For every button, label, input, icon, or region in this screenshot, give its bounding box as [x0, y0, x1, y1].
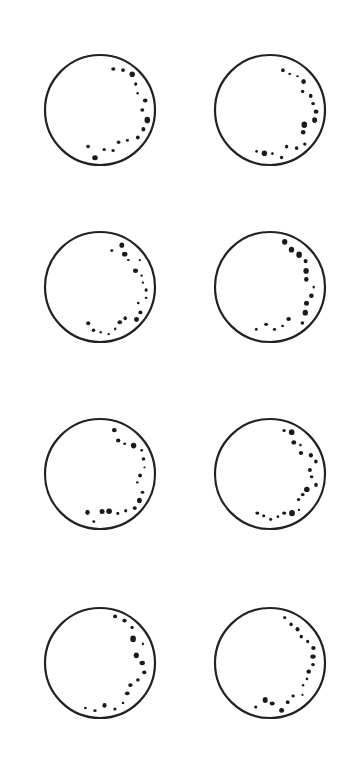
spot: [121, 68, 125, 72]
spot: [282, 429, 285, 432]
spot: [124, 509, 127, 512]
spot: [310, 475, 314, 478]
spot: [277, 515, 280, 518]
spot: [264, 323, 268, 326]
spot: [282, 511, 286, 514]
spot: [108, 333, 110, 335]
spot: [119, 243, 124, 248]
disc-outline: [215, 55, 325, 165]
spot: [136, 481, 139, 483]
spot: [130, 636, 136, 643]
spot: [130, 72, 135, 78]
spot: [299, 451, 303, 455]
spot: [311, 102, 315, 105]
spot: [86, 321, 90, 325]
spot: [295, 146, 299, 150]
spot: [286, 700, 290, 704]
spot: [113, 707, 116, 710]
spot: [289, 247, 294, 253]
disc-1: [45, 55, 155, 165]
spot: [286, 317, 291, 321]
spot: [143, 98, 148, 102]
spot: [271, 152, 274, 155]
spot: [309, 94, 313, 98]
spot: [102, 703, 106, 708]
spot: [300, 635, 303, 639]
spot: [142, 282, 144, 284]
spot: [103, 148, 106, 151]
spot: [116, 512, 119, 515]
spot: [145, 288, 148, 292]
spot: [309, 453, 313, 457]
spot: [311, 663, 315, 666]
spot: [255, 511, 259, 514]
spot: [270, 701, 275, 705]
spot: [280, 156, 283, 160]
spot: [313, 286, 315, 289]
spot: [118, 320, 123, 324]
spot: [314, 110, 319, 114]
spot: [134, 317, 139, 322]
spot: [301, 321, 305, 324]
spot: [106, 509, 112, 514]
spot: [279, 708, 284, 713]
spot: [296, 627, 300, 632]
spot: [145, 297, 148, 299]
spot: [123, 442, 126, 445]
spot: [301, 493, 305, 496]
spot: [145, 117, 151, 124]
spot: [140, 661, 145, 665]
spot: [269, 518, 272, 521]
spot: [254, 705, 257, 708]
spot: [124, 316, 127, 320]
spot: [304, 277, 308, 282]
spot: [263, 697, 268, 703]
spot: [125, 691, 130, 695]
spot: [138, 474, 142, 478]
spot: [117, 141, 121, 144]
spot: [306, 640, 309, 643]
spot: [283, 616, 286, 619]
spot: [110, 249, 113, 252]
spot: [142, 127, 146, 131]
spot: [281, 68, 285, 72]
spot: [306, 670, 311, 674]
spot: [142, 643, 144, 646]
spot: [136, 136, 140, 140]
spot: [111, 149, 114, 152]
spot: [142, 671, 146, 675]
spot: [296, 251, 302, 258]
spot: [100, 509, 105, 514]
spot: [282, 239, 287, 245]
spot: [140, 108, 144, 111]
spot: [303, 143, 306, 146]
spot: [291, 440, 296, 444]
spot: [255, 150, 258, 153]
spot: [143, 467, 145, 469]
spot: [312, 117, 317, 123]
spot: [311, 646, 315, 650]
spot: [139, 259, 141, 261]
spot: [309, 294, 314, 298]
spot: [289, 622, 292, 626]
spot: [304, 487, 310, 492]
spot: [308, 468, 312, 472]
spot: [302, 684, 304, 686]
spot: [302, 122, 308, 128]
disc-outline: [45, 608, 155, 718]
spot: [298, 509, 300, 511]
spot: [131, 626, 134, 629]
spot: [133, 506, 137, 510]
spot: [93, 709, 96, 712]
spot: [291, 695, 294, 698]
spot: [134, 82, 137, 86]
spot: [297, 498, 300, 501]
spot: [304, 259, 308, 263]
spot: [136, 678, 140, 681]
spot: [255, 328, 258, 331]
spot: [116, 438, 120, 442]
spot: [85, 510, 89, 515]
spot: [296, 75, 299, 77]
spot: [127, 259, 130, 261]
disc-8: [215, 608, 325, 718]
